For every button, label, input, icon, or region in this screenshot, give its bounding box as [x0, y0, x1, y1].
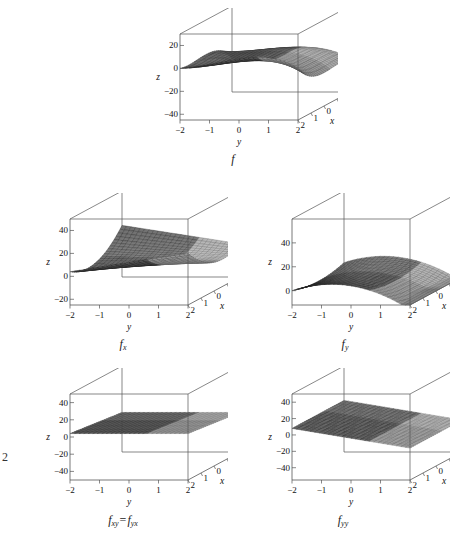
caption-fxy-base: f: [108, 513, 111, 527]
svg-text:x: x: [441, 476, 447, 486]
svg-text:2: 2: [191, 305, 196, 315]
plot-fy: 40200z−2−1012y210−1−2x: [240, 193, 450, 343]
stray-page-mark: 2: [2, 450, 8, 465]
svg-text:z: z: [155, 72, 160, 82]
svg-text:40: 40: [59, 225, 69, 235]
svg-text:x: x: [441, 301, 447, 311]
svg-text:40: 40: [59, 398, 69, 408]
svg-text:−2: −2: [287, 310, 297, 320]
caption-fx: fx: [73, 337, 173, 352]
svg-text:y: y: [126, 322, 132, 332]
svg-text:2: 2: [413, 480, 418, 490]
svg-text:20: 20: [169, 40, 179, 50]
svg-text:y: y: [236, 137, 242, 147]
svg-text:0: 0: [286, 286, 291, 296]
svg-text:−20: −20: [276, 446, 291, 456]
svg-text:0: 0: [439, 291, 444, 301]
svg-text:−1: −1: [95, 310, 105, 320]
svg-text:−1: −1: [95, 485, 105, 495]
svg-text:−1: −1: [317, 310, 327, 320]
svg-text:0: 0: [349, 310, 354, 320]
svg-text:0: 0: [64, 432, 69, 442]
svg-text:1: 1: [426, 473, 431, 483]
svg-text:0: 0: [217, 466, 222, 476]
caption-fxy-sub: xy: [112, 519, 119, 528]
svg-text:x: x: [219, 301, 225, 311]
svg-text:z: z: [267, 257, 272, 267]
svg-text:−20: −20: [164, 86, 179, 96]
svg-text:z: z: [45, 257, 50, 267]
svg-text:1: 1: [426, 298, 431, 308]
svg-text:0: 0: [127, 310, 132, 320]
svg-text:−1: −1: [205, 125, 215, 135]
partial-derivatives-figure: 2 200−20−40z−2−1012y210−1−2x f 40200−20z…: [0, 0, 465, 554]
svg-text:−40: −40: [276, 463, 291, 473]
svg-text:0: 0: [439, 466, 444, 476]
svg-text:−40: −40: [54, 466, 69, 476]
caption-fyx-sub: yx: [131, 519, 138, 528]
caption-fxy: fxy=fyx: [68, 513, 178, 528]
svg-text:20: 20: [281, 414, 291, 424]
svg-text:1: 1: [378, 485, 383, 495]
svg-text:−20: −20: [54, 449, 69, 459]
svg-text:2: 2: [191, 480, 196, 490]
svg-text:0: 0: [127, 485, 132, 495]
svg-text:z: z: [267, 432, 272, 442]
svg-text:1: 1: [204, 473, 209, 483]
svg-text:x: x: [219, 476, 225, 486]
svg-text:1: 1: [204, 298, 209, 308]
svg-text:0: 0: [217, 291, 222, 301]
svg-text:−2: −2: [287, 485, 297, 495]
svg-text:0: 0: [174, 63, 179, 73]
caption-fyy-sub: yy: [341, 519, 348, 528]
caption-fy-sub: y: [345, 343, 349, 352]
svg-text:x: x: [329, 116, 335, 126]
svg-text:y: y: [126, 497, 132, 507]
svg-text:y: y: [348, 322, 354, 332]
caption-fx-sub: x: [123, 343, 127, 352]
svg-text:20: 20: [59, 415, 69, 425]
svg-text:z: z: [45, 432, 50, 442]
svg-text:−40: −40: [164, 109, 179, 119]
svg-text:−20: −20: [54, 294, 69, 304]
svg-text:0: 0: [327, 106, 332, 116]
svg-text:2: 2: [301, 120, 306, 130]
svg-text:1: 1: [156, 310, 161, 320]
caption-fyy: fyy: [293, 513, 393, 528]
svg-text:0: 0: [286, 430, 291, 440]
plot-fyy: 40200−20−40z−2−1012y210−1−2x: [240, 368, 450, 518]
svg-text:1: 1: [314, 113, 319, 123]
svg-text:0: 0: [64, 271, 69, 281]
svg-text:40: 40: [281, 238, 291, 248]
caption-f-base: f: [231, 152, 234, 166]
plot-f: 200−20−40z−2−1012y210−1−2x: [128, 8, 338, 158]
plot-fx: 40200−20z−2−1012y210−1−2x: [18, 193, 228, 343]
svg-text:40: 40: [281, 397, 291, 407]
caption-fy: fy: [295, 337, 395, 352]
svg-text:−2: −2: [175, 125, 185, 135]
svg-text:1: 1: [378, 310, 383, 320]
svg-text:0: 0: [349, 485, 354, 495]
svg-text:−2: −2: [65, 485, 75, 495]
svg-text:y: y: [348, 497, 354, 507]
plot-fxy: 40200−20−40z−2−1012y210−1−2x: [18, 368, 228, 518]
svg-text:1: 1: [266, 125, 271, 135]
svg-text:1: 1: [156, 485, 161, 495]
svg-text:−2: −2: [65, 310, 75, 320]
svg-text:0: 0: [237, 125, 242, 135]
svg-text:2: 2: [413, 305, 418, 315]
svg-text:20: 20: [59, 248, 69, 258]
svg-text:−1: −1: [317, 485, 327, 495]
caption-f: f: [183, 152, 283, 167]
svg-text:20: 20: [281, 262, 291, 272]
